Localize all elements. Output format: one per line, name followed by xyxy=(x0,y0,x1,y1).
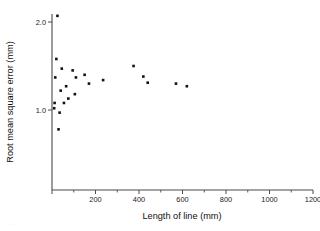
x-axis-tick-labels: 20040060080010001200 xyxy=(89,195,320,204)
data-point xyxy=(57,128,60,131)
x-axis-title: Length of line (mm) xyxy=(142,211,221,221)
data-point xyxy=(142,75,145,78)
y-axis-ticks xyxy=(48,22,52,110)
data-point xyxy=(102,79,105,82)
data-point xyxy=(54,76,57,79)
data-point xyxy=(88,82,91,85)
x-tick-label: 600 xyxy=(176,195,188,204)
data-point xyxy=(60,67,63,70)
data-point xyxy=(71,69,74,72)
data-point xyxy=(55,58,58,61)
y-axis-tick-labels: 1.02.0 xyxy=(36,18,46,115)
data-point xyxy=(74,93,77,96)
x-axis-ticks xyxy=(52,190,313,194)
data-point xyxy=(63,102,66,105)
data-point xyxy=(65,85,68,88)
data-points xyxy=(53,15,188,131)
plot-canvas: 1.02.0 20040060080010001200 Length of li… xyxy=(0,0,320,231)
y-tick-label: 2.0 xyxy=(36,18,46,27)
data-point xyxy=(67,97,70,100)
data-point xyxy=(75,76,78,79)
scan-artifact: · ·· ·· xyxy=(2,221,27,227)
y-tick-label: 1.0 xyxy=(36,106,46,115)
y-axis-title: Root mean square error (mm) xyxy=(5,41,15,163)
data-point xyxy=(53,107,56,110)
data-point xyxy=(132,65,135,68)
x-tick-label: 200 xyxy=(89,195,101,204)
scatter-plot-figure: 1.02.0 20040060080010001200 Length of li… xyxy=(0,0,320,231)
data-point xyxy=(59,89,62,92)
x-tick-label: 1200 xyxy=(305,195,320,204)
data-point xyxy=(53,102,56,105)
axes xyxy=(52,14,313,190)
data-point xyxy=(56,15,59,18)
data-point xyxy=(186,85,189,88)
x-tick-label: 400 xyxy=(133,195,145,204)
x-tick-label: 800 xyxy=(220,195,232,204)
data-point xyxy=(83,74,86,77)
x-tick-label: 1000 xyxy=(261,195,277,204)
data-point xyxy=(58,111,61,114)
data-point xyxy=(175,82,178,85)
data-point xyxy=(146,81,149,84)
